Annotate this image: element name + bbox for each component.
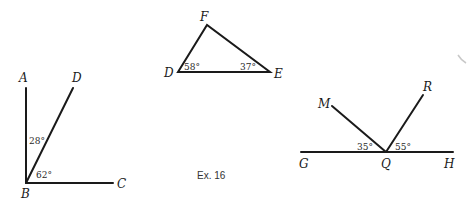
diagram-canvas: A D B C 28° 62° F D E 58° 37° M R G Q H … — [0, 0, 471, 203]
label-point-c: C — [117, 177, 126, 191]
label-point-e: E — [273, 67, 283, 81]
figure-straight-line: M R G Q H 35° 55° — [299, 80, 455, 171]
label-point-h: H — [443, 157, 455, 171]
label-point-r: R — [422, 80, 432, 94]
label-angle-d: 58° — [184, 62, 200, 72]
figure-right-angle: A D B C 28° 62° — [18, 71, 126, 201]
label-angle-rqh: 55° — [395, 142, 411, 152]
label-angle-abd: 28° — [29, 136, 45, 146]
label-angle-dbc: 62° — [36, 170, 52, 180]
label-point-d: D — [163, 66, 174, 80]
figure-triangle: F D E 58° 37° — [163, 10, 283, 81]
label-point-g: G — [299, 157, 309, 171]
label-angle-gqm: 35° — [357, 142, 373, 152]
label-point-b: B — [20, 187, 30, 201]
label-point-q: Q — [381, 157, 391, 171]
label-point-d: D — [71, 71, 82, 85]
scan-artifact-mark — [458, 55, 466, 63]
label-point-m: M — [317, 97, 331, 111]
figure-caption: Ex. 16 — [197, 170, 226, 181]
label-point-f: F — [199, 10, 209, 24]
label-angle-e: 37° — [240, 62, 256, 72]
label-point-a: A — [18, 71, 28, 85]
